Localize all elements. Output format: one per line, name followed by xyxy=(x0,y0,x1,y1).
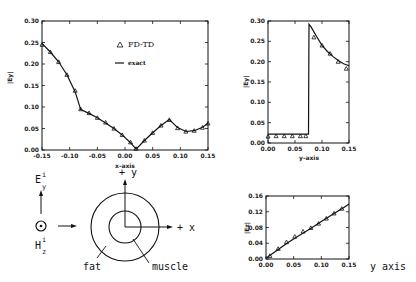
x-tick-label: -0.05 xyxy=(89,152,106,159)
y-axis-label: |Ey| xyxy=(242,76,250,88)
y-axis-label: |Ey| xyxy=(6,72,14,84)
y-tick-label: 0.08 xyxy=(248,224,263,231)
y-tick-label: 0.15 xyxy=(250,78,265,85)
y-tick-label: 0.15 xyxy=(24,82,39,89)
e-field-label: E xyxy=(35,174,41,185)
y-tick-label: 0.25 xyxy=(24,39,39,46)
y-ticks: 0.000.050.100.150.200.250.30 xyxy=(250,17,349,146)
e-field-sub: y xyxy=(42,183,46,191)
y-tick-label: 0.16 xyxy=(248,192,263,199)
x-tick-label: 0.15 xyxy=(201,152,216,159)
x-tick-label: 0.00 xyxy=(118,152,133,159)
y-tick-label: 0.20 xyxy=(24,60,39,67)
e-field-sup: i xyxy=(42,171,46,179)
x-tick-label: 0.10 xyxy=(315,145,330,152)
h-field-sup: i xyxy=(42,236,46,244)
geometry-diagram: E i y H i z + y + x fat muscle xyxy=(35,167,195,272)
x-tick-label: 0.05 xyxy=(145,152,160,159)
y-tick-label: 0.25 xyxy=(250,37,265,44)
arrowhead-icon xyxy=(71,224,77,228)
h-field-label: H xyxy=(35,240,41,251)
fdtd-markers xyxy=(266,35,348,138)
arrowhead-icon xyxy=(167,225,173,229)
y-tick-label: 0.05 xyxy=(250,119,265,126)
chart-ez-y-axis: 0.000.040.080.120.16 0.000.050.100.15 |E… xyxy=(243,192,406,272)
dot-icon xyxy=(40,225,43,228)
y-ticks: 0.000.040.080.120.16 xyxy=(248,192,349,262)
y-tick-label: 0.10 xyxy=(24,103,39,110)
y-ticks: 0.000.050.100.150.200.250.30 xyxy=(24,17,208,153)
x-tick-label: -0.15 xyxy=(33,152,50,159)
figure: 0.000.050.100.150.200.250.30 -0.15-0.10-… xyxy=(0,0,416,282)
triangle-marker-icon xyxy=(117,42,123,47)
x-tick-label: 0.10 xyxy=(173,152,188,159)
y-tick-label: 0.10 xyxy=(250,98,265,105)
exact-line xyxy=(268,24,349,134)
plus-y-label: + y xyxy=(119,167,137,178)
y-tick-label: 0.12 xyxy=(248,208,263,215)
y-tick-label: 0.05 xyxy=(24,125,39,132)
x-tick-label: 0.10 xyxy=(314,261,329,268)
legend: FD-TD exact xyxy=(115,40,154,66)
x-tick-label: 0.00 xyxy=(259,261,274,268)
x-tick-label: 0.05 xyxy=(288,145,303,152)
y-tick-label: 0.20 xyxy=(250,58,265,65)
chart-ey-y-axis: 0.000.050.100.150.200.250.30 0.000.050.1… xyxy=(242,17,356,162)
x-axis-label: y-axis xyxy=(299,154,319,162)
x-axis-label: y axis xyxy=(370,261,406,272)
x-tick-label: 0.05 xyxy=(286,261,301,268)
fdtd-markers xyxy=(40,43,210,151)
x-ticks: -0.15-0.10-0.050.000.050.100.15 xyxy=(33,21,215,159)
arrowhead-icon xyxy=(123,179,127,185)
exact-line xyxy=(42,43,208,149)
muscle-label: muscle xyxy=(152,261,188,272)
x-tick-label: -0.10 xyxy=(61,152,78,159)
fat-label: fat xyxy=(83,261,101,272)
y-tick-label: 0.30 xyxy=(250,17,265,24)
plus-x-label: + x xyxy=(177,222,195,233)
legend-exact: exact xyxy=(128,59,146,66)
triangle-marker-icon xyxy=(336,60,340,64)
y-axis-label: |Ez| xyxy=(243,222,251,234)
x-tick-label: 0.15 xyxy=(342,145,357,152)
y-tick-label: 0.04 xyxy=(248,239,263,246)
h-field-sub: z xyxy=(42,248,46,256)
chart-ey-x-axis: 0.000.050.100.150.200.250.30 -0.15-0.10-… xyxy=(6,17,215,169)
triangle-marker-icon xyxy=(312,35,316,39)
triangle-marker-icon xyxy=(344,67,348,71)
x-tick-label: 0.00 xyxy=(261,145,276,152)
legend-fdtd: FD-TD xyxy=(128,40,154,49)
x-tick-label: 0.15 xyxy=(342,261,357,268)
y-tick-label: 0.30 xyxy=(24,17,39,24)
